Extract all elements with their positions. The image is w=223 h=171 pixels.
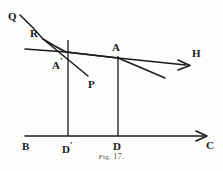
label-h-text: H	[192, 47, 201, 59]
label-b-text: B	[22, 140, 29, 152]
figure-drawing	[0, 0, 223, 171]
label-a-text: A	[112, 41, 120, 53]
label-a-prime: A'	[52, 57, 62, 71]
label-d-prime-mark: '	[70, 140, 73, 150]
label-a-prime-mark: '	[60, 56, 63, 66]
label-q: Q	[8, 11, 17, 22]
label-q-text: Q	[8, 10, 17, 22]
label-d: D	[113, 141, 121, 152]
label-p: P	[88, 79, 95, 90]
figure-caption: Fig. 17.	[0, 152, 223, 161]
curve-qra	[20, 15, 165, 78]
label-h: H	[192, 48, 201, 59]
line-r-to-p	[43, 39, 88, 76]
label-a-prime-letter: A	[52, 59, 60, 71]
label-r: R	[30, 28, 38, 39]
figure-container: Q R A' A P H B D' D C Fig. 17.	[0, 0, 223, 171]
label-d-text: D	[113, 140, 121, 152]
label-c-text: C	[206, 139, 214, 151]
caption-number: 17.	[113, 152, 124, 161]
label-p-text: P	[88, 78, 95, 90]
label-b: B	[22, 141, 29, 152]
label-r-text: R	[30, 27, 38, 39]
label-a: A	[112, 42, 120, 53]
label-c: C	[206, 140, 214, 151]
line-a-prime-to-h	[25, 49, 186, 65]
caption-prefix: Fig.	[99, 153, 111, 161]
